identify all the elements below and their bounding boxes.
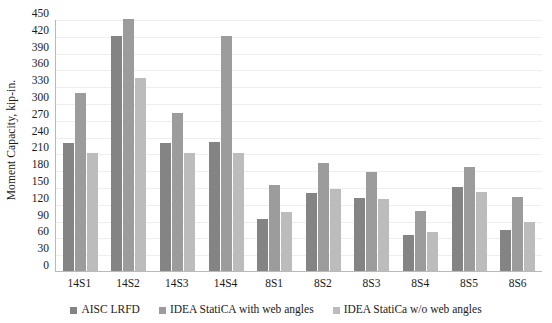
legend-item[interactable]: AISC LRFD: [70, 304, 139, 316]
bar[interactable]: [366, 172, 377, 271]
legend-item[interactable]: IDEA StatiCA with web angles: [159, 304, 314, 316]
x-axis-tick-label: 8S1: [250, 275, 299, 295]
bar[interactable]: [330, 189, 341, 271]
bar[interactable]: [415, 211, 426, 271]
bar[interactable]: [378, 199, 389, 271]
y-axis-tick-label: 300: [32, 92, 49, 104]
x-axis-tick-labels: 14S114S214S314S48S18S28S38S48S58S6: [55, 275, 542, 295]
bar-group: [105, 20, 154, 271]
bar[interactable]: [281, 212, 292, 271]
y-axis-tick-label: 390: [32, 42, 49, 54]
y-axis-tick-label: 150: [32, 176, 49, 188]
bar-group: [153, 20, 202, 271]
x-axis-tick-label: 8S5: [445, 275, 494, 295]
y-axis-tick-label: 30: [38, 243, 50, 255]
x-axis-tick-label: 14S1: [55, 275, 104, 295]
plot-area: [55, 20, 542, 272]
bar-group: [348, 20, 397, 271]
y-axis-tick-label: 450: [32, 8, 49, 20]
bar[interactable]: [209, 142, 220, 271]
legend-item[interactable]: IDEA StatiCa w/o web angles: [333, 304, 482, 316]
bar[interactable]: [172, 113, 183, 271]
bar-group: [250, 20, 299, 271]
bar[interactable]: [111, 36, 122, 271]
bar[interactable]: [184, 153, 195, 271]
chart-legend: AISC LRFDIDEA StatiCA with web anglesIDE…: [0, 300, 552, 320]
x-axis-tick-label: 14S3: [152, 275, 201, 295]
legend-label: IDEA StatiCa w/o web angles: [344, 304, 482, 316]
bar-group: [299, 20, 348, 271]
y-axis-tick-label: 330: [32, 75, 49, 87]
bar[interactable]: [427, 232, 438, 271]
bar[interactable]: [87, 153, 98, 271]
bar[interactable]: [306, 193, 317, 271]
bar[interactable]: [160, 143, 171, 271]
bar[interactable]: [464, 167, 475, 271]
bar-group: [396, 20, 445, 271]
x-axis-tick-label: 8S2: [299, 275, 348, 295]
bar[interactable]: [269, 185, 280, 271]
bar[interactable]: [476, 192, 487, 271]
bar[interactable]: [75, 93, 86, 271]
x-axis-tick-label: 14S2: [104, 275, 153, 295]
bar[interactable]: [233, 153, 244, 271]
legend-label: IDEA StatiCA with web angles: [170, 304, 314, 316]
x-axis-tick-label: 8S4: [396, 275, 445, 295]
bar[interactable]: [221, 36, 232, 271]
y-axis-tick-label: 270: [32, 109, 49, 121]
bar[interactable]: [257, 219, 268, 271]
bar-group: [493, 20, 542, 271]
y-axis-tick-label: 210: [32, 143, 49, 155]
y-axis-tick-label: 240: [32, 126, 49, 138]
bar[interactable]: [123, 19, 134, 271]
bar-chart: Moment Capacity, kip-in. 030609012015018…: [0, 0, 552, 323]
x-axis-tick-label: 14S4: [201, 275, 250, 295]
bar[interactable]: [403, 235, 414, 271]
bar-group: [445, 20, 494, 271]
y-axis-tick-labels: 0306090120150180210240270300330360390420…: [22, 14, 52, 278]
bars-layer: [56, 20, 542, 271]
bar[interactable]: [318, 163, 329, 271]
legend-swatch-icon: [70, 307, 77, 314]
x-axis-tick-label: 8S6: [493, 275, 542, 295]
y-axis-tick-label: 90: [38, 210, 50, 222]
bar[interactable]: [354, 198, 365, 271]
legend-swatch-icon: [159, 307, 166, 314]
bar[interactable]: [63, 143, 74, 271]
y-axis-tick-label: 0: [43, 260, 49, 272]
y-axis-tick-label: 420: [32, 25, 49, 37]
bar[interactable]: [512, 197, 523, 271]
x-axis-tick-label: 8S3: [347, 275, 396, 295]
y-axis-title: Moment Capacity, kip-in.: [0, 0, 22, 280]
y-axis-title-label: Moment Capacity, kip-in.: [5, 80, 17, 200]
bar[interactable]: [135, 78, 146, 271]
legend-label: AISC LRFD: [81, 304, 139, 316]
y-axis-tick-label: 360: [32, 59, 49, 71]
bar-group: [56, 20, 105, 271]
bar[interactable]: [500, 230, 511, 271]
y-axis-tick-label: 60: [38, 227, 50, 239]
y-axis-tick-label: 180: [32, 159, 49, 171]
bar-group: [202, 20, 251, 271]
y-axis-tick-label: 120: [32, 193, 49, 205]
legend-swatch-icon: [333, 307, 340, 314]
bar[interactable]: [452, 187, 463, 271]
bar[interactable]: [524, 222, 535, 271]
